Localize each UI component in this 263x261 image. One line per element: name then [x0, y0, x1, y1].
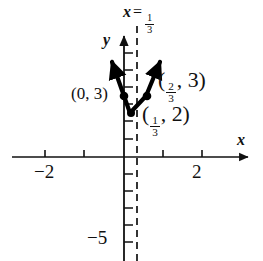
vertex-label-fraction: 1 3 — [150, 115, 160, 139]
point-label-one-third-2: ( 1 3 , 2) — [142, 104, 190, 138]
point-label-fraction: 2 3 — [166, 81, 176, 105]
point-marker-two-thirds-3 — [143, 92, 152, 101]
point-label-close: , 3) — [177, 68, 206, 92]
point-marker-0-3 — [120, 92, 129, 101]
asymptote-label-variable: x — [123, 3, 131, 20]
x-axis — [12, 150, 248, 157]
graph-figure: x= 1 3 y x −2 2 −5 (0, 3) ( 2 3 , 3) ( 1… — [0, 0, 263, 261]
asymptote-label-equals: = — [133, 3, 142, 20]
y-axis-ticks — [124, 53, 133, 242]
point-marker-one-third-2 — [127, 109, 135, 117]
vertex-label-open-paren: ( — [142, 102, 149, 126]
point-label-0-3: (0, 3) — [71, 85, 108, 102]
asymptote-label-fraction: 1 3 — [145, 13, 154, 36]
vertex-fraction-denominator: 3 — [150, 127, 160, 138]
x-axis-label: x — [237, 132, 245, 148]
point-label-two-thirds-3: ( 2 3 , 3) — [158, 70, 206, 104]
coordinate-plane — [0, 0, 263, 261]
y-tick-label-neg5: −5 — [87, 228, 107, 247]
asymptote-label: x= 1 3 — [123, 4, 155, 36]
asymptote-fraction-denominator: 3 — [145, 25, 154, 36]
vertex-label-close: , 2) — [161, 102, 190, 126]
y-axis — [124, 36, 133, 261]
x-tick-label-pos2: 2 — [192, 162, 202, 181]
x-tick-label-neg2: −2 — [34, 162, 54, 181]
y-axis-label: y — [103, 32, 110, 48]
point-label-open-paren: ( — [158, 68, 165, 92]
